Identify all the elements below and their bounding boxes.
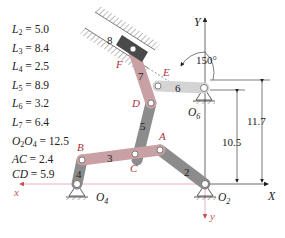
svg-text:7: 7 bbox=[138, 70, 144, 82]
parameter-row: L6 = 3.2 bbox=[12, 96, 69, 115]
pin-F bbox=[130, 46, 136, 52]
svg-text:2: 2 bbox=[184, 166, 190, 178]
global-x-label: X bbox=[267, 189, 276, 203]
pin-E bbox=[155, 83, 161, 89]
svg-text:5: 5 bbox=[140, 120, 146, 132]
parameter-row: O2O4 = 12.5 bbox=[12, 134, 69, 153]
dimension-11-7: 11.7 bbox=[210, 80, 270, 182]
global-y-label: Y bbox=[194, 15, 202, 29]
svg-text:O2: O2 bbox=[218, 191, 230, 206]
svg-text:E: E bbox=[162, 66, 170, 78]
local-y-label: y bbox=[209, 210, 215, 222]
pin-O4 bbox=[74, 181, 81, 188]
angle-150: 150° bbox=[181, 52, 217, 80]
angle-label: 150° bbox=[196, 54, 217, 66]
parameter-row: L7 = 6.4 bbox=[12, 115, 69, 134]
pin-D bbox=[148, 100, 154, 106]
parameter-row: CD = 5.9 bbox=[12, 167, 69, 182]
local-y-axis: y bbox=[205, 184, 215, 222]
svg-text:A: A bbox=[158, 130, 166, 142]
svg-text:O6: O6 bbox=[188, 106, 200, 121]
svg-text:B: B bbox=[77, 141, 84, 153]
svg-text:4: 4 bbox=[76, 168, 82, 180]
dimension-10-5-label: 10.5 bbox=[222, 136, 242, 148]
local-x-axis: x bbox=[13, 184, 205, 198]
svg-text:6: 6 bbox=[175, 82, 181, 94]
pin-B bbox=[79, 157, 85, 163]
svg-text:C: C bbox=[130, 162, 138, 174]
svg-text:8: 8 bbox=[107, 34, 113, 46]
svg-text:D: D bbox=[131, 97, 140, 109]
pin-A bbox=[157, 147, 163, 153]
parameter-list: L2 = 5.0L3 = 8.4L4 = 2.5L5 = 8.9L6 = 3.2… bbox=[12, 22, 69, 181]
link-2 bbox=[160, 150, 205, 184]
pin-O2 bbox=[202, 181, 209, 188]
parameter-row: L2 = 5.0 bbox=[12, 22, 69, 41]
link-3 bbox=[82, 150, 160, 160]
dimension-10-5: 10.5 bbox=[210, 90, 245, 182]
pin-O6 bbox=[201, 85, 208, 92]
parameter-row: AC = 2.4 bbox=[12, 152, 69, 167]
link-6 bbox=[158, 86, 204, 88]
parameter-row: L5 = 8.9 bbox=[12, 78, 69, 97]
pin-C bbox=[132, 151, 138, 157]
svg-text:F: F bbox=[115, 58, 123, 70]
dimension-11-7-label: 11.7 bbox=[247, 115, 266, 127]
global-y-axis: Y bbox=[194, 15, 205, 184]
svg-text:O4: O4 bbox=[96, 191, 108, 206]
parameter-row: L3 = 8.4 bbox=[12, 41, 69, 60]
local-x-label: x bbox=[13, 186, 19, 198]
svg-text:3: 3 bbox=[107, 152, 113, 164]
parameter-row: L4 = 2.5 bbox=[12, 59, 69, 78]
global-x-axis: X bbox=[205, 184, 276, 203]
